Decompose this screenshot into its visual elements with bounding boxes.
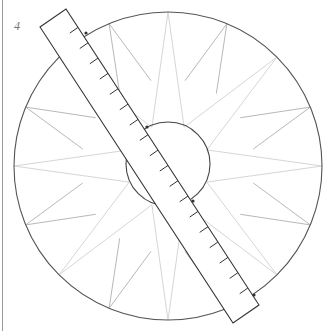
star-line [26,107,83,149]
ruler [40,9,259,323]
star-line [152,205,168,320]
star-line [184,57,277,127]
star-line [59,182,129,275]
star-line [14,166,129,182]
diagram-canvas [0,0,329,331]
intersection-marker [191,199,194,202]
star-line [109,251,151,308]
star-line [26,183,83,225]
star-line [253,107,310,149]
star-line [109,24,151,81]
intersection-marker [145,125,148,128]
star-line [26,107,96,118]
star-line [240,107,310,118]
star-line [207,57,277,150]
intersection-markers [84,31,255,296]
star-line [59,205,152,275]
star-line [26,214,96,225]
star-line [253,183,310,225]
intersection-marker [252,293,255,296]
ruler-body [40,9,259,323]
star-line [216,24,227,94]
star-line [109,238,120,308]
star-line [185,24,227,81]
star-line [168,12,184,127]
intersection-marker [84,31,87,34]
star-line [14,150,129,166]
star-line [152,12,168,127]
star-line [240,214,310,225]
star-line [207,150,322,166]
star-line [207,166,322,182]
